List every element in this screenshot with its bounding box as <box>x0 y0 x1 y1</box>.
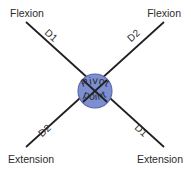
diag-label-top-right-d2: D2 <box>125 27 142 44</box>
label-bottom-left-extension: Extension <box>8 153 54 165</box>
label-top-left-flexion: Flexion <box>10 7 44 19</box>
label-top-right-flexion: Flexion <box>147 7 181 19</box>
diagram-canvas: Pivot point Flexion Flexion Extension Ex… <box>0 0 191 169</box>
pivot-point-diagram: Pivot point Flexion Flexion Extension Ex… <box>0 0 191 169</box>
diag-label-top-left-d1: D1 <box>43 27 60 44</box>
diag-label-bottom-right-d1: D1 <box>133 122 150 139</box>
label-bottom-right-extension: Extension <box>137 153 183 165</box>
